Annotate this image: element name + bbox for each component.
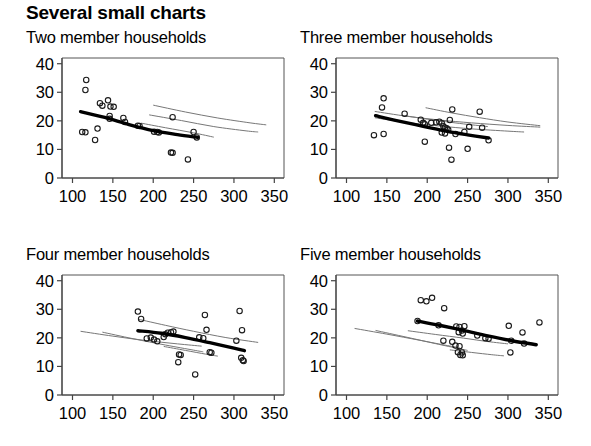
data-point	[105, 98, 110, 103]
data-point	[379, 105, 384, 110]
chart-four-member-households: 010203040100150200250300350	[26, 267, 290, 437]
x-axis-tick-label: 300	[220, 404, 248, 422]
data-point	[441, 338, 446, 343]
data-point	[446, 145, 451, 150]
data-point	[84, 77, 89, 82]
y-axis-tick-label: 10	[310, 357, 328, 375]
x-axis-tick-label: 250	[180, 404, 208, 422]
data-point	[204, 327, 209, 332]
x-axis-tick-label: 250	[454, 404, 482, 422]
x-axis-tick-label: 300	[494, 187, 522, 205]
data-point	[450, 107, 455, 112]
reference-curve	[426, 108, 541, 126]
chart-five-member-households: 010203040100150200250300350	[300, 267, 564, 437]
x-axis-tick-label: 100	[333, 404, 361, 422]
x-axis-tick-label: 200	[413, 187, 441, 205]
panel-title: Four member households	[26, 245, 210, 264]
plot-area	[371, 96, 540, 163]
data-point	[422, 139, 427, 144]
x-axis-tick-label: 350	[535, 404, 563, 422]
data-point	[465, 146, 470, 151]
x-axis-tick-label: 350	[261, 404, 289, 422]
x-axis-tick-label: 100	[59, 187, 87, 205]
data-point	[193, 372, 198, 377]
x-axis-tick-label: 350	[261, 187, 289, 205]
y-axis-tick-label: 0	[319, 169, 328, 187]
x-axis-tick-label: 150	[373, 187, 401, 205]
scatter-plot-four: 010203040100150200250300350	[26, 267, 290, 437]
data-point	[506, 323, 511, 328]
fit-curve	[138, 331, 245, 351]
y-axis-tick-label: 10	[36, 140, 54, 158]
data-point	[381, 96, 386, 101]
y-axis-tick-label: 0	[319, 386, 328, 404]
data-point	[92, 137, 97, 142]
x-axis-tick-label: 250	[180, 187, 208, 205]
figure-root: Several small charts Two member househol…	[0, 0, 591, 446]
fit-curve	[418, 321, 537, 345]
data-point	[449, 157, 454, 162]
data-point	[202, 312, 207, 317]
scatter-plot-five: 010203040100150200250300350	[300, 267, 564, 437]
panel-title: Five member households	[300, 245, 481, 264]
plot-frame	[336, 275, 558, 395]
data-point	[537, 320, 542, 325]
data-point	[520, 330, 525, 335]
plot-frame	[62, 58, 284, 178]
y-axis-tick-label: 0	[45, 386, 54, 404]
x-axis-tick-label: 200	[139, 187, 167, 205]
plot-frame	[336, 58, 558, 178]
y-axis-tick-label: 20	[310, 329, 328, 347]
data-point	[135, 309, 140, 314]
data-point	[371, 132, 376, 137]
data-point	[83, 87, 88, 92]
page-title: Several small charts	[26, 2, 206, 24]
data-point	[418, 297, 423, 302]
x-axis-tick-label: 150	[373, 404, 401, 422]
y-axis-tick-label: 20	[36, 112, 54, 130]
data-point	[237, 308, 242, 313]
y-axis-tick-label: 40	[310, 272, 328, 290]
reference-curve	[149, 115, 258, 132]
y-axis-tick-label: 20	[310, 112, 328, 130]
x-axis-tick-label: 100	[59, 404, 87, 422]
chart-three-member-households: 010203040100150200250300350	[300, 50, 564, 220]
x-axis-tick-label: 150	[99, 404, 127, 422]
data-point	[176, 359, 181, 364]
plot-area	[79, 77, 266, 162]
fit-curve	[81, 112, 198, 138]
chart-two-member-households: 010203040100150200250300350	[26, 50, 290, 220]
y-axis-tick-label: 20	[36, 329, 54, 347]
y-axis-tick-label: 30	[36, 300, 54, 318]
y-axis-tick-label: 40	[36, 55, 54, 73]
data-point	[508, 350, 513, 355]
x-axis-tick-label: 300	[220, 187, 248, 205]
x-axis-tick-label: 150	[99, 187, 127, 205]
y-axis-tick-label: 30	[36, 83, 54, 101]
plot-area	[355, 295, 543, 358]
data-point	[239, 327, 244, 332]
plot-area	[81, 308, 259, 377]
data-point	[424, 299, 429, 304]
data-point	[95, 126, 100, 131]
scatter-plot-two: 010203040100150200250300350	[26, 50, 290, 220]
x-axis-tick-label: 300	[494, 404, 522, 422]
data-point	[477, 109, 482, 114]
x-axis-tick-label: 200	[139, 404, 167, 422]
y-axis-tick-label: 10	[36, 357, 54, 375]
x-axis-tick-label: 250	[454, 187, 482, 205]
x-axis-tick-label: 350	[535, 187, 563, 205]
y-axis-tick-label: 30	[310, 83, 328, 101]
panel-title: Three member households	[300, 28, 493, 47]
data-point	[441, 305, 446, 310]
y-axis-tick-label: 40	[310, 55, 328, 73]
x-axis-tick-label: 100	[333, 187, 361, 205]
x-axis-tick-label: 200	[413, 404, 441, 422]
data-point	[185, 157, 190, 162]
y-axis-tick-label: 30	[310, 300, 328, 318]
data-point	[381, 131, 386, 136]
data-point	[429, 295, 434, 300]
panel-title: Two member households	[26, 28, 206, 47]
y-axis-tick-label: 40	[36, 272, 54, 290]
y-axis-tick-label: 0	[45, 169, 54, 187]
